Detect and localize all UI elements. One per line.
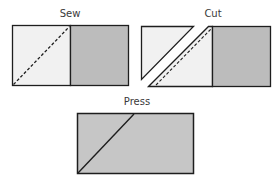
sew-label: Sew xyxy=(60,8,81,19)
pressed-rectangle xyxy=(78,114,194,174)
cut-label: Cut xyxy=(204,8,221,19)
press-label: Press xyxy=(124,96,150,107)
cut-step: Cut xyxy=(142,8,271,87)
sew-dark-square xyxy=(71,26,129,86)
quilting-steps-diagram: Sew Cut Press xyxy=(0,0,280,184)
sew-step: Sew xyxy=(13,8,129,86)
cut-dark-square xyxy=(213,27,271,87)
press-step: Press xyxy=(78,96,194,174)
